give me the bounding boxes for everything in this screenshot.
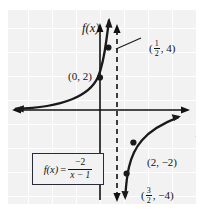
paren-open: ( xyxy=(141,190,145,201)
equation-text: f(x) = −2 x − 1 xyxy=(44,158,93,180)
point-label-half-4: ( 1 2 , 4) xyxy=(149,39,175,57)
point-marker-3half-neg4 xyxy=(124,170,130,176)
equation-equals: = xyxy=(60,164,66,175)
label-tail: , −4) xyxy=(153,190,174,201)
point-label-2-neg2: (2, −2) xyxy=(147,157,177,168)
equation-numerator: −2 xyxy=(73,158,87,169)
fraction-three-halves: 3 2 xyxy=(146,187,152,205)
equation-fraction: −2 x − 1 xyxy=(68,158,92,180)
figure-root: f(x) x ( 1 2 , 4) (0, 2) (2, −2) ( 3 xyxy=(0,0,206,218)
point-label-0-2: (0, 2) xyxy=(68,71,92,82)
leader-line-half-4 xyxy=(116,38,141,49)
point-marker-half-4 xyxy=(105,44,111,50)
vertical-asymptote xyxy=(113,24,120,202)
equation-box: f(x) = −2 x − 1 xyxy=(32,153,104,185)
fraction-one-half: 1 2 xyxy=(154,40,160,58)
equation-lhs: f(x) xyxy=(44,164,59,175)
point-marker-2-neg2 xyxy=(130,139,136,145)
paren-open: ( xyxy=(149,43,153,54)
label-tail: , 4) xyxy=(161,43,176,54)
y-axis-label: f(x) xyxy=(82,22,99,35)
plot-panel: f(x) x ( 1 2 , 4) (0, 2) (2, −2) ( 3 xyxy=(8,10,196,204)
point-label-3half-neg4: ( 3 2 , −4) xyxy=(141,186,174,204)
point-marker-0-2 xyxy=(97,74,103,80)
equation-denominator: x − 1 xyxy=(68,169,92,181)
